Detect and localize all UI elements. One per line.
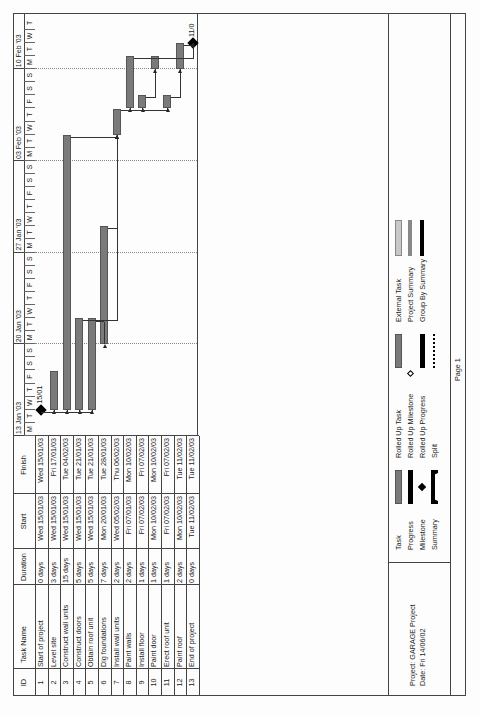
cell-name: Construct wall units (60, 585, 73, 669)
legend-project-date: Date: Fri 14/06/02 (418, 628, 428, 686)
day-label: S (24, 174, 35, 187)
week-label: 10 Feb '03 (13, 34, 24, 69)
cell-finish: Thu 06/02/03 (111, 436, 124, 494)
dependency-line (180, 69, 181, 98)
cell-finish: Mon 10/02/03 (148, 436, 161, 494)
week-label: 27 Jan '03 (13, 219, 24, 253)
day-label: S (24, 161, 35, 174)
task-bar (50, 371, 58, 410)
milestone-date-label: 11/0 (187, 24, 197, 37)
cell-duration: 1 days (136, 549, 149, 585)
legend-project-name: Project: GARAGE Project (408, 605, 418, 686)
cell-name: Dig foundations (98, 585, 111, 669)
day-label: M (24, 331, 35, 344)
legend-task-swatch-icon (395, 470, 402, 504)
task-bar (138, 95, 146, 108)
milestone-date-label: 15/01 (35, 386, 45, 404)
legend-label-rolled-up-progress: Rolled Up Progress (418, 396, 428, 458)
cell-start: Wed 05/02/03 (111, 494, 124, 549)
legend-group-by-summary-icon (420, 220, 424, 256)
day-label: T (24, 226, 35, 239)
dependency-line (155, 69, 156, 98)
header-task-name: Task Name (13, 585, 35, 669)
day-label: S (24, 69, 35, 82)
cell-id: 12 (174, 669, 187, 696)
day-label: T (24, 384, 35, 397)
day-label: T (24, 292, 35, 305)
cell-finish: Tue 21/01/03 (73, 436, 86, 494)
cell-duration: 3 days (48, 549, 61, 585)
cell-finish: Tue 21/01/03 (85, 436, 98, 494)
cell-start: Wed 15/01/03 (85, 494, 98, 549)
day-label: M (24, 423, 35, 436)
cell-name: Erect roof unit (161, 585, 174, 669)
day-label: T (24, 318, 35, 331)
day-label: F (24, 187, 35, 200)
cell-duration: 15 days (60, 549, 73, 585)
cell-start: Mon 10/02/03 (174, 494, 187, 549)
task-bar (113, 109, 121, 135)
cell-start: Tue 11/02/03 (186, 494, 199, 549)
cell-name: Paint walls (123, 585, 136, 669)
day-label: T (24, 410, 35, 423)
task-bar (176, 43, 184, 69)
legend-project-divider (388, 562, 450, 563)
cell-start: Wed 15/01/03 (35, 494, 48, 549)
table-row-divider (199, 436, 200, 696)
cell-id: 1 (35, 669, 48, 696)
dependency-line (96, 321, 105, 322)
cell-duration: 2 days (111, 549, 124, 585)
day-label: T (24, 109, 35, 122)
cell-start: Mon 10/02/03 (148, 494, 161, 549)
legend-rolled-up-task-swatch-icon (395, 334, 402, 368)
cell-finish: Fri 17/01/03 (48, 436, 61, 494)
cell-duration: 5 days (73, 549, 86, 585)
cell-name: Start of project (35, 585, 48, 669)
gantt-bottom-border (197, 13, 198, 436)
legend-label-task: Task (394, 535, 404, 550)
legend-label-milestone: Milestone (418, 519, 428, 550)
cell-name: Install floor (136, 585, 149, 669)
day-label: T (24, 43, 35, 56)
legend-summary-left-cap-icon (431, 498, 438, 504)
legend-progress-swatch-icon (408, 470, 413, 504)
day-label: F (24, 279, 35, 292)
cell-start: Fri 07/02/03 (161, 494, 174, 549)
cell-finish: Wed 15/01/03 (35, 436, 48, 494)
day-label: M (24, 148, 35, 161)
dependency-line (121, 111, 167, 112)
week-label: 13 Jan '03 (13, 402, 24, 436)
legend-summary-right-cap-icon (431, 470, 438, 476)
header-duration: Duration (13, 549, 35, 585)
cell-id: 4 (73, 669, 86, 696)
gantt-printout-page: ID Task Name Duration Start Finish 1Star… (0, 0, 480, 716)
legend-label-group-by-summary: Group By Summary (418, 259, 428, 322)
cell-finish: Fri 07/02/03 (161, 436, 174, 494)
cell-start: Fri 07/02/03 (136, 494, 149, 549)
dependency-line (83, 320, 117, 321)
cell-finish: Tue 11/02/03 (174, 436, 187, 494)
legend-label-split: Split (430, 444, 440, 458)
cell-start: Fri 07/01/03 (123, 494, 136, 549)
cell-duration: 2 days (174, 549, 187, 585)
day-label: T (24, 17, 35, 30)
cell-id: 7 (111, 669, 124, 696)
day-label: W (24, 30, 35, 43)
dependency-line (108, 228, 117, 229)
cell-duration: 2 days (123, 549, 136, 585)
header-finish: Finish (13, 436, 35, 494)
day-label: W (24, 397, 35, 410)
day-label: T (24, 200, 35, 213)
legend-rolled-up-progress-swatch-icon (420, 334, 425, 368)
dependency-arrow-icon (90, 410, 94, 414)
legend-top-divider (388, 13, 389, 696)
cell-duration: 7 days (98, 549, 111, 585)
day-label: M (24, 56, 35, 69)
dependency-arrow-icon (191, 43, 195, 47)
cell-finish: Tue 28/01/03 (98, 436, 111, 494)
dependency-line (171, 97, 180, 98)
cell-name: Paint roof (174, 585, 187, 669)
cell-id: 8 (123, 669, 136, 696)
header-start: Start (13, 494, 35, 549)
day-label: S (24, 82, 35, 95)
